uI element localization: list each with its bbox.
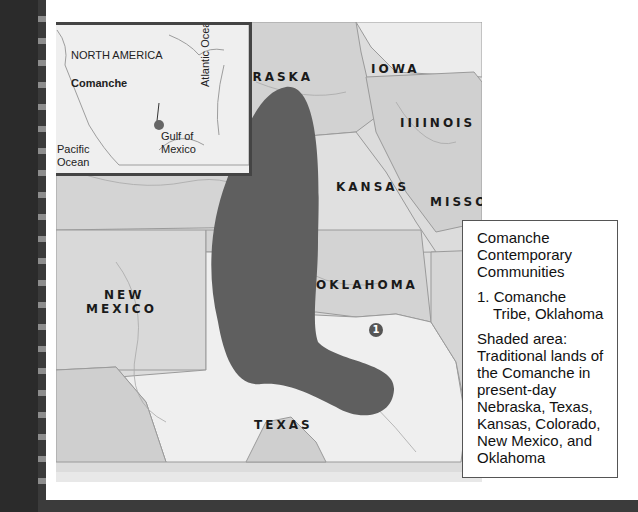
binding-stripe [38,0,46,512]
comanche-location-dot [154,120,164,130]
inset-gulf-1: Gulf of [161,130,193,143]
state-label-iowa: IOWA [371,62,420,76]
legend-item-1: 1. Comanche Tribe, Oklahoma [477,288,607,322]
inset-gulf-2: Mexico [161,143,196,156]
inset-atlantic: Atlantic Ocean [199,22,212,87]
page-bottom-edge [38,500,638,512]
inset-pacific-1: Pacific [57,143,89,156]
inset-map-north-america: NORTH AMERICA Comanche Pacific Ocean Gul… [56,22,252,176]
legend-box: Comanche Contemporary Communities 1. Com… [462,220,618,478]
state-label-illinois: IIIINOIS [400,116,475,130]
legend-description: Shaded area: Traditional lands of the Co… [477,330,607,466]
state-label-new: NEW [104,288,144,302]
state-label-missouri: MISSOURI [430,195,482,209]
legend-title-line-1: Comanche [477,229,550,246]
inset-title: NORTH AMERICA [71,49,162,62]
state-label-kansas: KANSAS [336,180,409,194]
legend-title-line-2: Contemporary [477,246,572,263]
state-label-texas: TEXAS [254,418,313,432]
legend-title: Comanche Contemporary Communities [477,229,607,280]
legend-title-line-3: Communities [477,263,565,280]
page-binding [0,0,38,512]
map: NEBRASKA IOWA IIIINOIS KANSAS MISSOURI N… [56,22,482,482]
state-label-mexico: MEXICO [86,302,157,316]
inset-pacific-2: Ocean [57,156,89,169]
inset-comanche-label: Comanche [71,77,127,90]
community-marker-1: 1 [369,323,383,337]
state-label-oklahoma: OKLAHOMA [316,278,418,292]
